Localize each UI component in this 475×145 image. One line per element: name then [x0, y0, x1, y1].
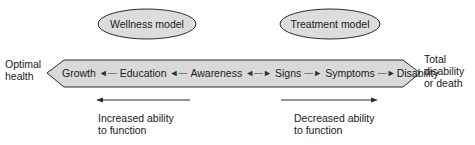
stage-awareness: Awareness: [190, 66, 242, 80]
decreased-ability-line2: to function: [294, 124, 375, 136]
total-disability-line1: Total: [424, 53, 464, 65]
arrow-left-icon: ◄—: [99, 66, 117, 80]
increased-ability-line2: to function: [98, 124, 174, 136]
arrow-right-icon: —►: [304, 66, 322, 80]
figure-caption-clipped: [190, 137, 310, 145]
arrow-bidirectional-icon: ◄—►: [245, 66, 272, 80]
stage-symptoms: Symptoms: [325, 66, 375, 80]
wellness-illness-continuum-diagram: Wellness model Treatment model Optimal h…: [0, 0, 475, 145]
decreased-ability-line1: Decreased ability: [294, 112, 375, 124]
stage-growth: Growth: [62, 66, 96, 80]
decreased-ability-label: Decreased ability to function: [294, 112, 375, 136]
optimal-health-label: Optimal health: [5, 58, 41, 82]
increased-ability-arrow: [96, 98, 190, 103]
wellness-model-label: Wellness model: [98, 18, 196, 30]
increased-ability-line1: Increased ability: [98, 112, 174, 124]
stage-disability: Disability: [397, 66, 439, 80]
treatment-model-label: Treatment model: [280, 18, 380, 30]
decreased-ability-arrow: [281, 98, 378, 103]
optimal-health-line2: health: [5, 70, 41, 82]
continuum-stages: Growth ◄— Education ◄— Awareness ◄—► Sig…: [62, 66, 407, 80]
arrow-right-icon: —►: [378, 66, 396, 80]
increased-ability-label: Increased ability to function: [98, 112, 174, 136]
arrow-left-icon: ◄—: [169, 66, 187, 80]
optimal-health-line1: Optimal: [5, 58, 41, 70]
stage-education: Education: [120, 66, 167, 80]
stage-signs: Signs: [275, 66, 301, 80]
